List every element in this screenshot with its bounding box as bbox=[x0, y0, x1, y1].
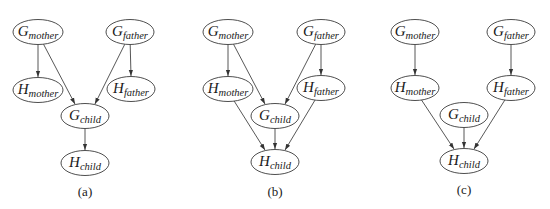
node-h-child: Hchild bbox=[61, 151, 109, 176]
node-g-mother: Gmother bbox=[203, 20, 253, 45]
node-g-father: Gfather bbox=[297, 20, 345, 45]
node-g-mother: Gmother bbox=[391, 20, 439, 45]
panel-b: GmotherGfatherHmotherHfatherGchildHchild… bbox=[203, 20, 345, 200]
node-g-father: Gfather bbox=[487, 20, 535, 45]
node-h-mother: Hmother bbox=[391, 76, 439, 101]
node-g-father: Gfather bbox=[106, 20, 154, 45]
panel-c: GmotherGfatherHmotherHfatherGchildHchild… bbox=[391, 20, 535, 198]
node-h-child: Hchild bbox=[440, 149, 488, 174]
node-h-father: Hfather bbox=[107, 77, 155, 102]
edge-g-father-to-h-father bbox=[130, 45, 131, 77]
panel-b-caption: (b) bbox=[267, 184, 282, 199]
node-h-mother: Hmother bbox=[203, 77, 253, 102]
pedigree-diagrams: GmotherGfatherHmotherHfatherGchildHchild… bbox=[0, 0, 550, 209]
arrow-line bbox=[130, 45, 131, 77]
panel-b-nodes: GmotherGfatherHmotherHfatherGchildHchild bbox=[203, 20, 345, 175]
panel-a: GmotherGfatherHmotherHfatherGchildHchild… bbox=[13, 20, 155, 200]
panel-c-caption: (c) bbox=[457, 182, 471, 197]
panel-a-caption: (a) bbox=[78, 184, 92, 199]
panel-c-nodes: GmotherGfatherHmotherHfatherGchildHchild bbox=[391, 20, 535, 174]
node-g-child: Gchild bbox=[61, 104, 109, 129]
node-g-mother: Gmother bbox=[13, 20, 63, 45]
node-h-father: Hfather bbox=[487, 76, 535, 101]
node-h-father: Hfather bbox=[297, 76, 345, 101]
panel-a-nodes: GmotherGfatherHmotherHfatherGchildHchild bbox=[13, 20, 155, 176]
node-h-mother: Hmother bbox=[13, 78, 63, 103]
node-g-child: Gchild bbox=[440, 103, 488, 128]
node-g-child: Gchild bbox=[251, 104, 299, 129]
node-h-child: Hchild bbox=[251, 150, 299, 175]
